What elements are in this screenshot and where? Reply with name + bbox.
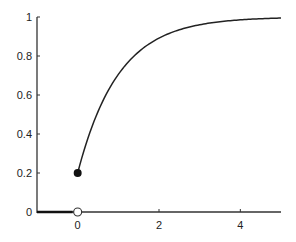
- x-tick-label: 2: [156, 219, 162, 231]
- x-tick-label: 0: [75, 219, 81, 231]
- point-markers: [74, 169, 82, 216]
- y-tick-label: 0.4: [17, 128, 32, 140]
- y-tick-label: 0: [26, 206, 32, 218]
- open-point-marker: [74, 208, 82, 216]
- y-tick-label: 1: [26, 11, 32, 23]
- filled-point-marker: [74, 169, 82, 177]
- y-tick-label: 0.2: [17, 167, 32, 179]
- y-axis: 00.20.40.60.81: [17, 11, 40, 218]
- series-line-cdf: [78, 18, 281, 173]
- x-tick-label: 4: [237, 219, 243, 231]
- cdf-chart: 00.20.40.60.81 024: [0, 0, 296, 242]
- plot-series: [37, 18, 281, 212]
- y-tick-label: 0.6: [17, 89, 32, 101]
- y-tick-label: 0.8: [17, 50, 32, 62]
